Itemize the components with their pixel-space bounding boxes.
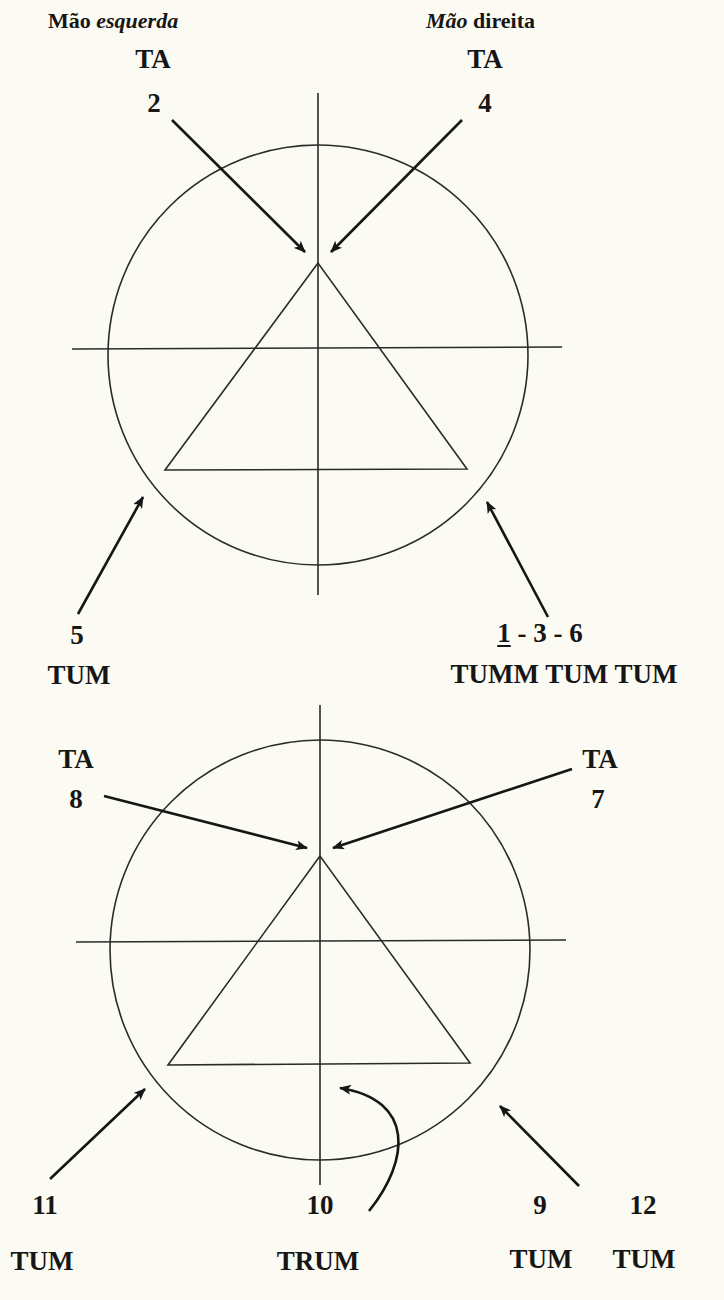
label-4: 4	[478, 90, 492, 117]
label-9: 9	[533, 1192, 547, 1219]
left-hand-word1: Mão	[48, 8, 91, 33]
arrow-7-icon	[333, 769, 572, 848]
label-trum: TRUM	[277, 1248, 360, 1275]
top-horizontal-axis	[72, 347, 562, 349]
arrow-8-icon	[104, 796, 307, 848]
right-hand-word2: direita	[473, 8, 535, 33]
label-tum-12: TUM	[613, 1246, 676, 1273]
arrow-1-3-6-icon	[487, 502, 548, 617]
left-hand-word2: esquerda	[96, 8, 178, 33]
label-1-underlined: 1	[497, 618, 511, 648]
top-triangle	[165, 263, 467, 470]
label-tum-5: TUM	[48, 662, 111, 689]
label-tum-9: TUM	[510, 1246, 573, 1273]
top-diagram	[72, 93, 562, 617]
arrow-2-icon	[172, 120, 305, 252]
label-10: 10	[307, 1192, 334, 1219]
bottom-diagram	[50, 705, 579, 1211]
right-hand-word1: Mão	[426, 8, 468, 33]
label-ta-left-bottom: TA	[58, 746, 94, 773]
label-3-6: - 3 - 6	[511, 618, 583, 648]
label-1-3-6: 1 - 3 - 6	[497, 620, 582, 647]
label-5: 5	[70, 622, 84, 649]
diagram-canvas	[0, 0, 724, 1300]
label-ta-right-bottom: TA	[582, 746, 618, 773]
bottom-horizontal-axis	[76, 940, 566, 942]
label-8: 8	[69, 786, 83, 813]
bottom-triangle	[168, 856, 470, 1065]
label-7: 7	[591, 786, 605, 813]
label-11: 11	[32, 1192, 58, 1219]
label-tumm-tum-tum: TUMM TUM TUM	[451, 661, 678, 688]
label-2: 2	[147, 90, 161, 117]
label-ta-left-top: TA	[135, 46, 171, 73]
arrow-9-icon	[500, 1106, 579, 1186]
label-tum-11: TUM	[11, 1248, 74, 1275]
label-ta-right-top: TA	[467, 46, 503, 73]
left-hand-heading: Mão esquerda	[48, 10, 178, 32]
label-12: 12	[630, 1192, 657, 1219]
right-hand-heading: Mão direita	[426, 10, 535, 32]
arrow-5-icon	[78, 497, 143, 614]
arrow-11-icon	[50, 1089, 145, 1179]
arrow-10-curved-icon	[340, 1088, 398, 1211]
